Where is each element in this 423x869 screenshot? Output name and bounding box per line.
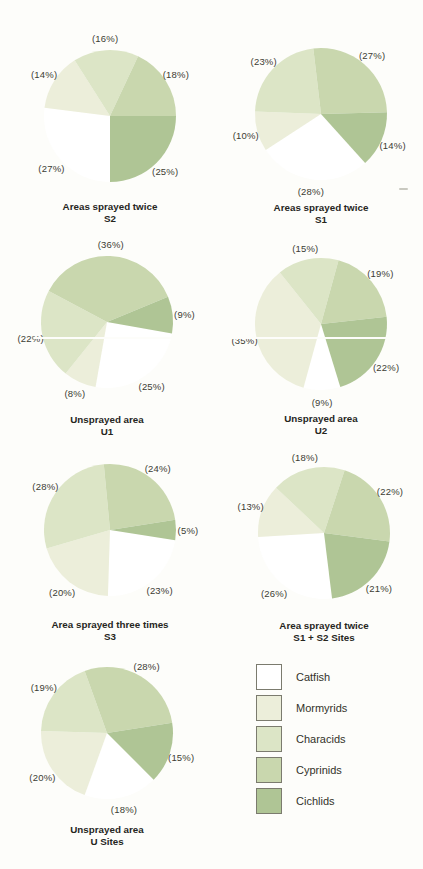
pie-percent-label: (20%) bbox=[29, 771, 55, 782]
chart-title: Area sprayed three times bbox=[10, 619, 210, 631]
chart-caption-u1: Unsprayed area U1 bbox=[7, 414, 207, 437]
pie-percent-label: (22%) bbox=[373, 361, 399, 372]
pie-percent-label: (16%) bbox=[92, 33, 118, 44]
pie-percent-label: (9%) bbox=[312, 397, 333, 408]
pie-percent-label: (23%) bbox=[251, 56, 277, 67]
chart-title: Unsprayed area bbox=[7, 824, 207, 836]
pie-percent-label: (18%) bbox=[163, 69, 189, 80]
pie-percent-label: (28%) bbox=[32, 481, 58, 492]
legend-item-catfish: Catfish bbox=[256, 664, 416, 690]
pie-percent-label: (25%) bbox=[152, 166, 178, 177]
legend-swatch-cichlids bbox=[256, 788, 282, 814]
legend-label-characids: Characids bbox=[296, 733, 346, 745]
pie-percent-label: (28%) bbox=[134, 660, 160, 671]
chart-caption-s2: Areas sprayed twice S2 bbox=[10, 201, 210, 224]
chart-title: Areas sprayed twice bbox=[221, 202, 421, 214]
legend-item-characids: Characids bbox=[256, 726, 416, 752]
chart-caption-u2: Unsprayed area U2 bbox=[221, 413, 421, 436]
pie-slice-catfish bbox=[96, 322, 172, 388]
legend-label-mormyrids: Mormyrids bbox=[296, 702, 347, 714]
chart-caption-s1-s2-sites: Area sprayed twice S1 + S2 Sites bbox=[224, 620, 423, 643]
pie-percent-label: (26%) bbox=[261, 587, 287, 598]
chart-title: Unsprayed area bbox=[7, 414, 207, 426]
pie-percent-label: (19%) bbox=[31, 682, 57, 693]
chart-subtitle: S1 bbox=[221, 214, 421, 226]
pie-percent-label: (27%) bbox=[359, 50, 385, 61]
pie-graphic-s3 bbox=[40, 460, 180, 600]
pie-percent-label: (19%) bbox=[367, 268, 393, 279]
pie-percent-label: (9%) bbox=[174, 308, 195, 319]
pie-graphic-u1 bbox=[37, 252, 177, 392]
chart-caption-s3: Area sprayed three times S3 bbox=[10, 619, 210, 642]
pie-percent-label: (35%) bbox=[231, 334, 257, 345]
pie-percent-label: (22%) bbox=[377, 486, 403, 497]
pie-percent-label: (14%) bbox=[31, 69, 57, 80]
chart-caption-u-sites: Unsprayed area U Sites bbox=[7, 824, 207, 847]
chart-subtitle: S2 bbox=[10, 213, 210, 225]
chart-caption-s1: Areas sprayed twice S1 bbox=[221, 202, 421, 225]
pie-percent-label: (25%) bbox=[139, 380, 165, 391]
chart-subtitle: U Sites bbox=[7, 836, 207, 848]
legend-label-cichlids: Cichlids bbox=[296, 795, 335, 807]
legend-item-mormyrids: Mormyrids bbox=[256, 695, 416, 721]
chart-subtitle: S3 bbox=[10, 631, 210, 643]
legend-item-cyprinids: Cyprinids bbox=[256, 757, 416, 783]
chart-title: Areas sprayed twice bbox=[10, 201, 210, 213]
pie-percent-label: (18%) bbox=[111, 804, 137, 815]
scan-stray-mark bbox=[399, 188, 408, 190]
pie-percent-label: (23%) bbox=[147, 585, 173, 596]
legend-swatch-catfish bbox=[256, 664, 282, 690]
pie-percent-label: (18%) bbox=[292, 452, 318, 463]
pie-percent-label: (20%) bbox=[49, 586, 75, 597]
pie-percent-label: (5%) bbox=[178, 525, 199, 536]
legend-label-cyprinids: Cyprinids bbox=[296, 764, 342, 776]
chart-subtitle: U1 bbox=[7, 426, 207, 438]
pie-percent-label: (21%) bbox=[366, 583, 392, 594]
chart-title: Area sprayed twice bbox=[224, 620, 423, 632]
pie-percent-label: (13%) bbox=[238, 501, 264, 512]
pie-percent-label: (8%) bbox=[64, 388, 85, 399]
legend-swatch-mormyrids bbox=[256, 695, 282, 721]
pie-percent-label: (36%) bbox=[98, 239, 124, 250]
pie-percent-label: (24%) bbox=[145, 463, 171, 474]
chart-title: Unsprayed area bbox=[221, 413, 421, 425]
figure-page: (27%)(14%)(16%)(18%)(25%) Areas sprayed … bbox=[0, 0, 423, 869]
pie-percent-label: (10%) bbox=[233, 129, 259, 140]
pie-percent-label: (14%) bbox=[379, 139, 405, 150]
pie-percent-label: (28%) bbox=[298, 186, 324, 197]
legend-swatch-cyprinids bbox=[256, 757, 282, 783]
pie-graphic-u-sites bbox=[37, 663, 177, 803]
chart-subtitle: S1 + S2 Sites bbox=[224, 632, 423, 644]
chart-subtitle: U2 bbox=[221, 425, 421, 437]
legend-item-cichlids: Cichlids bbox=[256, 788, 416, 814]
scan-artifact-line bbox=[34, 337, 394, 339]
pie-percent-label: (27%) bbox=[38, 162, 64, 173]
pie-percent-label: (15%) bbox=[292, 242, 318, 253]
legend-label-catfish: Catfish bbox=[296, 671, 330, 683]
legend-swatch-characids bbox=[256, 726, 282, 752]
pie-percent-label: (15%) bbox=[168, 752, 194, 763]
legend: Catfish Mormyrids Characids Cyprinids Ci… bbox=[256, 664, 416, 819]
